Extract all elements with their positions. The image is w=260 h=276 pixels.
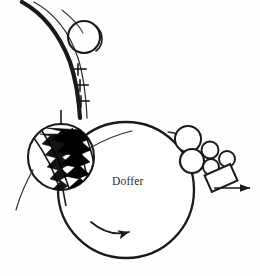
doffer-label: Doffer — [112, 175, 144, 187]
calender-roller-1 — [175, 126, 201, 152]
calender-roller-2 — [180, 149, 204, 173]
diagram-canvas: Doffer — [0, 0, 260, 276]
calender-roller-3 — [202, 142, 219, 159]
doffer-diagram-svg — [0, 0, 260, 276]
